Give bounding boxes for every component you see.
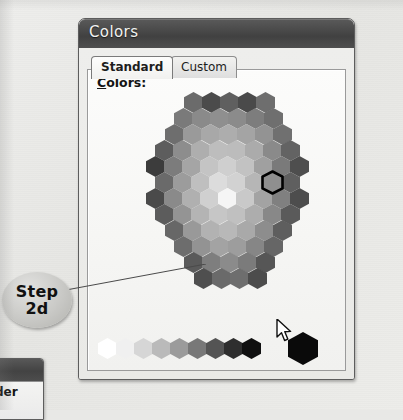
step-callout-line1: Step [16,283,59,300]
grayscale-hex-swatch[interactable] [170,338,189,359]
grayscale-hex-swatch[interactable] [224,338,243,359]
grayscale-hex-swatch[interactable] [206,338,225,359]
current-color-swatch[interactable] [288,332,318,365]
tab-standard-label: Standard [101,60,163,74]
tab-custom-label: Custom [181,60,227,74]
standard-colors-panel: Colors: [87,69,346,371]
tab-custom[interactable]: Custom [171,56,237,78]
dialog-title-bar[interactable]: Colors [79,19,354,48]
callout-leader-line [66,264,206,292]
mouse-pointer-icon [276,319,292,342]
partial-window-divider [0,381,43,382]
grayscale-strip[interactable] [88,332,345,366]
partial-background-window: rder [0,358,44,420]
grayscale-hex-swatch[interactable] [188,338,207,359]
grayscale-hex-swatch[interactable] [242,338,261,359]
grayscale-hex-swatch[interactable] [98,338,117,359]
grayscale-hex-swatch[interactable] [134,338,153,359]
grayscale-hex-swatch[interactable] [152,338,171,359]
tab-standard[interactable]: Standard [91,56,173,79]
color-honeycomb[interactable] [88,92,345,287]
step-callout: Step 2d [2,272,72,328]
dialog-title: Colors [89,23,138,41]
colors-dialog: Colors Standard Custom Colors: [78,18,355,380]
partial-window-label: rder [0,385,18,399]
grayscale-hex-swatch[interactable] [116,338,135,359]
partial-window-title-bar [0,359,43,381]
step-callout-line2: 2d [25,300,48,317]
